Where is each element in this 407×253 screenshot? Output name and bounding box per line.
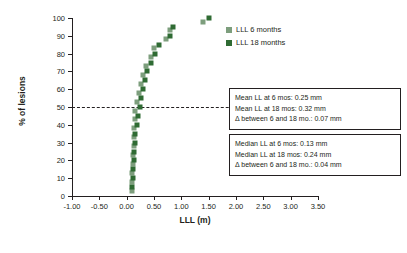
data-point — [132, 140, 137, 145]
y-tick-label: 70 — [57, 67, 65, 76]
y-tick-label: 40 — [57, 120, 65, 129]
data-point — [206, 16, 211, 21]
data-point — [131, 158, 136, 163]
legend-swatch-icon-6-months — [226, 27, 232, 33]
chart-root: % of lesions LLL (m) 0102030405060708090… — [0, 0, 407, 253]
y-tick-mark — [68, 178, 72, 179]
x-tick-mark — [154, 196, 155, 200]
data-point — [153, 51, 158, 56]
x-tick-mark — [99, 196, 100, 200]
annotation-median-line-1: Median LL at 6 mos: 0.13 mm — [235, 139, 395, 150]
annotation-median-line-2: Median LL at 18 mos: 0.24 mm — [235, 150, 395, 161]
annotation-median-line-3: Δ between 6 and 18 mo.: 0.04 mm — [235, 160, 395, 171]
data-point — [168, 33, 173, 38]
y-tick-label: 90 — [57, 31, 65, 40]
data-point — [131, 167, 136, 172]
legend-item-6-months: LLL 6 months — [226, 24, 285, 35]
data-point — [157, 42, 162, 47]
data-point — [143, 78, 148, 83]
data-point — [134, 122, 139, 127]
y-tick-label: 60 — [57, 85, 65, 94]
x-tick-label: 1.00 — [174, 202, 189, 211]
chart-legend: LLL 6 months LLL 18 months — [226, 24, 285, 50]
x-tick-label: 0.50 — [147, 202, 162, 211]
x-tick-mark — [263, 196, 264, 200]
y-tick-mark — [68, 18, 72, 19]
data-point — [130, 176, 135, 181]
data-point — [152, 46, 157, 51]
y-tick-label: 80 — [57, 49, 65, 58]
data-point — [132, 149, 137, 154]
data-point — [201, 19, 206, 24]
x-axis-line — [72, 196, 318, 197]
data-point — [141, 87, 146, 92]
y-tick-mark — [68, 143, 72, 144]
y-tick-label: 50 — [57, 103, 65, 112]
x-tick-mark — [209, 196, 210, 200]
annotation-mean-line-2: Mean LL at 18 mos: 0.32 mm — [235, 104, 395, 115]
legend-swatch-icon-18-months — [226, 40, 232, 46]
y-tick-label: 20 — [57, 156, 65, 165]
data-point — [133, 131, 138, 136]
y-axis-title: % of lesions — [17, 51, 27, 151]
x-tick-mark — [181, 196, 182, 200]
annotation-median-box: Median LL at 6 mos: 0.13 mm Median LL at… — [229, 134, 401, 176]
x-tick-label: 0.00 — [119, 202, 134, 211]
annotation-mean-line-1: Mean LL at 6 mos: 0.25 mm — [235, 93, 395, 104]
data-point — [148, 60, 153, 65]
data-point — [170, 24, 175, 29]
x-tick-mark — [72, 196, 73, 200]
x-tick-mark — [318, 196, 319, 200]
x-tick-label: -1.00 — [63, 202, 80, 211]
data-point — [135, 113, 140, 118]
data-point — [130, 185, 135, 190]
x-axis-title: LLL (m) — [72, 215, 318, 225]
x-tick-label: 2.00 — [229, 202, 244, 211]
x-tick-label: 1.50 — [201, 202, 216, 211]
annotation-mean-box: Mean LL at 6 mos: 0.25 mm Mean LL at 18 … — [229, 88, 401, 130]
y-tick-mark — [68, 36, 72, 37]
y-tick-label: 10 — [57, 174, 65, 183]
legend-label-18-months: LLL 18 months — [236, 37, 285, 48]
y-tick-mark — [68, 54, 72, 55]
data-point — [145, 69, 150, 74]
y-tick-label: 100 — [52, 14, 65, 23]
y-tick-label: 0 — [61, 192, 65, 201]
legend-item-18-months: LLL 18 months — [226, 37, 285, 48]
data-point — [138, 96, 143, 101]
x-tick-mark — [127, 196, 128, 200]
x-tick-mark — [291, 196, 292, 200]
y-tick-label: 30 — [57, 138, 65, 147]
y-tick-mark — [68, 71, 72, 72]
y-tick-mark — [68, 160, 72, 161]
x-tick-label: 2.50 — [256, 202, 271, 211]
y-tick-mark — [68, 125, 72, 126]
data-point — [137, 105, 142, 110]
x-tick-label: 3.00 — [283, 202, 298, 211]
legend-label-6-months: LLL 6 months — [236, 24, 281, 35]
x-tick-mark — [236, 196, 237, 200]
annotation-mean-line-3: Δ between 6 and 18 mo.: 0.07 mm — [235, 114, 395, 125]
x-tick-label: 3.50 — [311, 202, 326, 211]
y-tick-mark — [68, 89, 72, 90]
x-tick-label: -0.50 — [91, 202, 108, 211]
